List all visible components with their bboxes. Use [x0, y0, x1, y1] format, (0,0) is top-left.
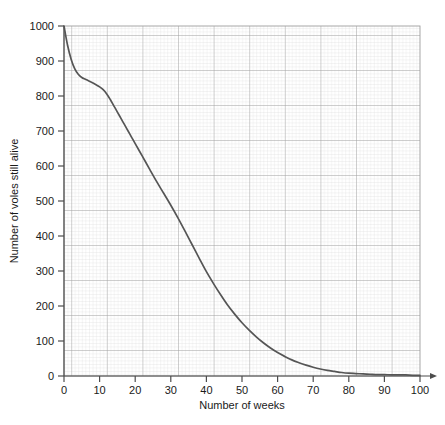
y-tick-label-1000: 1000 — [30, 20, 54, 32]
x-tick-label-50: 50 — [236, 384, 248, 396]
x-tick-label-10: 10 — [93, 384, 105, 396]
y-tick-label-100: 100 — [36, 335, 54, 347]
survivorship-chart: 0 100 200 300 400 500 600 700 800 900 10… — [0, 0, 445, 425]
x-tick-label-30: 30 — [165, 384, 177, 396]
x-tick-label-80: 80 — [343, 384, 355, 396]
x-tick-label-100: 100 — [411, 384, 429, 396]
x-tick-label-90: 90 — [378, 384, 390, 396]
x-tick-label-70: 70 — [307, 384, 319, 396]
y-axis-title: Number of voles still alive — [8, 139, 20, 264]
y-tick-label-200: 200 — [36, 300, 54, 312]
x-tick-label-60: 60 — [271, 384, 283, 396]
chart-canvas: 0 100 200 300 400 500 600 700 800 900 10… — [0, 0, 445, 425]
y-tick-label-500: 500 — [36, 195, 54, 207]
y-tick-label-600: 600 — [36, 160, 54, 172]
y-tick-label-400: 400 — [36, 230, 54, 242]
y-tick-label-300: 300 — [36, 265, 54, 277]
x-tick-label-40: 40 — [200, 384, 212, 396]
y-tick-label-800: 800 — [36, 90, 54, 102]
y-tick-label-700: 700 — [36, 125, 54, 137]
y-tick-label-0: 0 — [48, 370, 54, 382]
x-axis-title: Number of weeks — [199, 399, 285, 411]
x-tick-label-20: 20 — [129, 384, 141, 396]
y-tick-label-900: 900 — [36, 55, 54, 67]
x-tick-label-0: 0 — [61, 384, 67, 396]
